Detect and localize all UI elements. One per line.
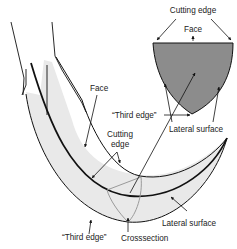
label-third-edge-top: “Third edge” — [112, 111, 157, 120]
arrow-cutting-edge-main-b — [117, 152, 120, 163]
label-crosssection: Crosssection — [121, 234, 169, 243]
shank-line-1 — [11, 22, 24, 95]
label-third-edge-bottom: “Third edge” — [62, 233, 107, 242]
arrow-cutting-edge-right — [211, 19, 231, 40]
label-lateral-surface-bottom: Lateral surface — [162, 219, 217, 228]
arrow-face-main — [85, 95, 97, 147]
crosssection-enlarged — [153, 43, 233, 114]
blade-diagram: Cutting edge Face “Third edge” Lateral s… — [0, 0, 237, 249]
label-cutting-edge-main-2: edge — [111, 140, 130, 149]
label-cutting-edge-top: Cutting edge — [170, 6, 217, 15]
label-lateral-surface-top: Lateral surface — [169, 125, 224, 134]
label-face-top: Face — [184, 25, 203, 34]
arrow-third-edge-bottom — [89, 220, 91, 234]
label-face-main: Face — [90, 84, 109, 93]
label-cutting-edge-main-1: Cutting — [107, 130, 133, 139]
arrow-cutting-edge-left — [157, 19, 176, 40]
